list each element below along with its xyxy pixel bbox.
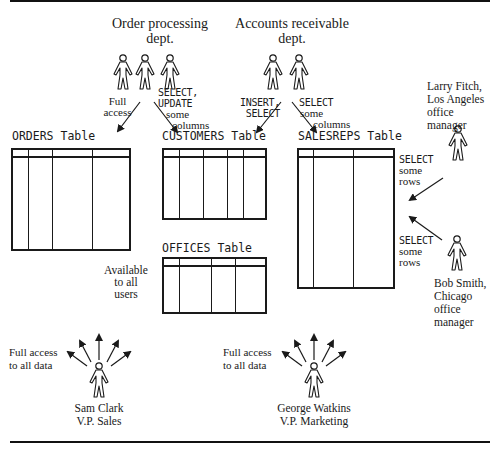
person-icon — [290, 55, 308, 89]
salesreps-table[interactable] — [297, 148, 395, 289]
offices-table[interactable] — [162, 257, 267, 314]
person-icon — [305, 363, 323, 397]
salesreps-table-title: SALESREPS Table — [298, 129, 402, 143]
orders-table-title: ORDERS Table — [12, 129, 95, 143]
select-some-rows-label-2: SELECT some rows — [399, 235, 433, 268]
full-access-all-data-label-1: Full access to all data — [9, 346, 58, 372]
george-watkins-access-arrows — [283, 335, 345, 366]
orders-table[interactable] — [11, 148, 131, 251]
sam-clark-label: Sam Clark V.P. Sales — [59, 402, 139, 428]
larry-fitch-label: Larry Fitch, Los Angeles office manager — [427, 80, 484, 132]
person-icon — [448, 236, 466, 270]
person-icon — [136, 55, 154, 89]
full-access-all-data-label-2: Full access to all data — [223, 346, 272, 372]
insert-select-label: INSERT, SELECT — [239, 97, 280, 119]
security-diagram: Order processing dept. Accounts receivab… — [0, 0, 497, 449]
customers-table-title: CUSTOMERS Table — [162, 129, 266, 143]
sam-clark-access-arrows — [68, 335, 130, 366]
person-icon — [114, 55, 132, 89]
select-some-columns-label: SELECT some columns — [299, 97, 350, 130]
person-icon — [264, 55, 282, 89]
person-icon — [90, 363, 108, 397]
select-some-rows-label-1: SELECT some rows — [399, 154, 433, 187]
person-icon — [161, 55, 179, 89]
george-watkins-label: George Watkins V.P. Marketing — [264, 402, 364, 428]
bob-smith-label: Bob Smith, Chicago office manager — [434, 277, 486, 329]
full-access-label: Full access — [100, 96, 135, 118]
available-to-all-label: Available to all users — [100, 264, 152, 300]
offices-table-title: OFFICES Table — [162, 241, 252, 255]
customers-table[interactable] — [162, 148, 267, 220]
select-update-label: SELECT, UPDATE some columns — [158, 87, 209, 131]
